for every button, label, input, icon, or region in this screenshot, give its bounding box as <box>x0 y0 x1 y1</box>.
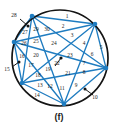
region-number-label: 11 <box>59 85 64 91</box>
vertex-point <box>93 22 98 27</box>
figure-container: 1234567891112131416171819202122232425262… <box>0 0 118 136</box>
region-number-label: 13 <box>37 82 43 88</box>
region-number-label: 20 <box>33 52 39 58</box>
region-number-label: 7 <box>83 60 86 66</box>
callout-number-label: 15 <box>4 66 10 72</box>
region-number-label: 26 <box>21 40 27 46</box>
region-number-label: 17 <box>28 62 34 68</box>
region-number-label: 23 <box>67 52 73 58</box>
region-number-label: 29 <box>33 26 39 32</box>
region-number-label: 18 <box>35 72 41 78</box>
callout-number-label: 28 <box>11 12 17 18</box>
region-number-label: 16 <box>19 53 25 59</box>
region-number-label: 8 <box>83 69 86 75</box>
vertex-point <box>12 40 17 45</box>
vertex-point <box>30 14 35 19</box>
region-number-label: 2 <box>62 23 65 29</box>
vertex-point <box>20 81 25 86</box>
callout-arrow-tip <box>27 25 30 28</box>
region-number-label: 25 <box>33 38 39 44</box>
region-number-label: 22 <box>54 60 60 66</box>
region-number-label: 12 <box>47 83 53 89</box>
callout-number-label: 10 <box>92 94 98 100</box>
region-number-label: 24 <box>51 40 57 46</box>
figure-caption: (f) <box>0 112 118 122</box>
vertex-point <box>104 66 109 71</box>
region-number-label: 5 <box>100 44 103 50</box>
callout-arrow-tip <box>84 88 87 91</box>
region-number-label: 30 <box>44 26 50 32</box>
region-number-label: 21 <box>65 70 71 76</box>
region-number-label: 19 <box>45 66 51 72</box>
region-number-label: 1 <box>66 13 69 19</box>
vertex-point <box>62 102 67 107</box>
region-number-label: 6 <box>91 51 94 57</box>
region-number-label: 14 <box>34 92 40 98</box>
region-number-label: 9 <box>75 82 78 88</box>
center-pointer-dot <box>59 56 62 59</box>
region-number-label: 27 <box>22 29 28 35</box>
callout-arrow-tip <box>18 61 21 64</box>
region-number-label: 4 <box>83 40 86 46</box>
region-number-label: 3 <box>71 32 74 38</box>
